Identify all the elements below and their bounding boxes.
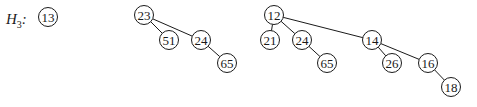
node-value: 24	[296, 33, 310, 48]
tree-edge	[208, 46, 220, 56]
tree-node: 12	[265, 6, 284, 25]
tree-nodes: 13235124651221246514261618	[39, 6, 461, 97]
tree-edge	[378, 47, 386, 56]
node-value: 12	[268, 8, 281, 23]
tree-edge	[281, 21, 295, 33]
tree-edge	[435, 70, 445, 80]
tree-node: 21	[261, 31, 280, 50]
tree-node: 24	[192, 31, 211, 50]
tree-edge	[272, 24, 273, 30]
tree-node: 65	[218, 54, 237, 73]
tree-node: 24	[293, 31, 312, 50]
tree-edge	[151, 22, 163, 34]
node-value: 26	[386, 56, 400, 71]
tree-node: 16	[419, 54, 438, 73]
tree-node: 51	[160, 31, 179, 50]
node-value: 65	[221, 56, 234, 71]
node-value: 51	[163, 33, 176, 48]
node-value: 16	[422, 56, 436, 71]
heap-label: H3:	[5, 11, 27, 30]
node-value: 13	[42, 10, 55, 25]
node-value: 14	[366, 33, 380, 48]
node-value: 18	[445, 80, 458, 95]
tree-edge	[309, 46, 320, 56]
tree-node: 14	[363, 31, 382, 50]
node-value: 21	[264, 33, 277, 48]
node-value: 23	[138, 8, 151, 23]
node-value: 65	[321, 56, 334, 71]
tree-node: 23	[135, 6, 154, 25]
node-value: 24	[195, 33, 209, 48]
tree-node: 26	[383, 54, 402, 73]
binomial-heap-diagram: H3: 13235124651221246514261618	[0, 0, 477, 107]
tree-node: 65	[318, 54, 337, 73]
tree-node: 18	[442, 78, 461, 97]
tree-node: 13	[39, 8, 58, 27]
